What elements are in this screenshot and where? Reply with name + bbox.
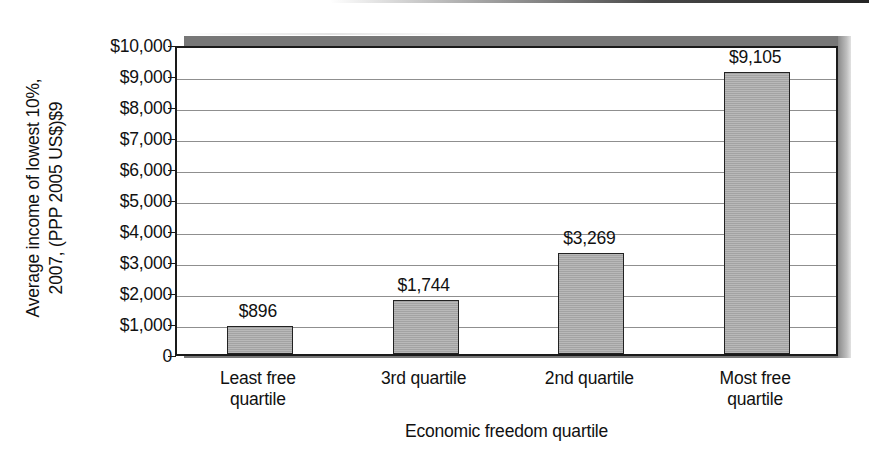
bar-value-label: $9,105 xyxy=(685,49,825,67)
y-axis-tick-label-6000: $6,000 xyxy=(62,162,172,180)
bar-value-label: $3,269 xyxy=(519,230,659,248)
scan-artifact-top xyxy=(330,0,869,3)
x-axis-category-label-line-2: quartile xyxy=(173,389,343,410)
y-axis-tick-label-9000: $9,000 xyxy=(62,69,172,87)
y-axis-title-line-1: Average income of lowest 10%, xyxy=(22,33,45,363)
bar-value-label: $896 xyxy=(188,303,328,321)
x-axis-category-label: 3rd quartile xyxy=(339,368,509,389)
x-axis-category-label: Most freequartile xyxy=(670,368,840,410)
x-axis-category-label: Least freequartile xyxy=(173,368,343,410)
y-axis-tick-0 xyxy=(168,356,176,357)
y-axis-tick-label-8000: $8,000 xyxy=(62,100,172,118)
x-axis-category-label-line-2: quartile xyxy=(670,389,840,410)
y-axis-tick-label-10000: $10,000 xyxy=(62,38,172,56)
plot-drop-shadow-fade xyxy=(838,36,851,358)
bar xyxy=(227,326,293,354)
y-axis-tick-label-0: 0 xyxy=(62,348,172,366)
x-axis-category-label-line-1: Least free xyxy=(173,368,343,389)
x-axis-category-label: 2nd quartile xyxy=(504,368,674,389)
scan-artifact-secondary xyxy=(180,33,480,35)
y-axis-tick-label-3000: $3,000 xyxy=(62,255,172,273)
x-axis-category-label-line-1: Most free xyxy=(670,368,840,389)
bar xyxy=(393,300,459,354)
bar xyxy=(558,253,624,354)
y-axis-tick-label-4000: $4,000 xyxy=(62,224,172,242)
x-axis-category-label-line-1: 2nd quartile xyxy=(504,368,674,389)
x-axis-category-label-line-1: 3rd quartile xyxy=(339,368,509,389)
bar xyxy=(724,72,790,354)
y-axis-tick-label-5000: $5,000 xyxy=(62,193,172,211)
y-axis-tick-label-7000: $7,000 xyxy=(62,131,172,149)
y-axis-tick-label-2000: $2,000 xyxy=(62,286,172,304)
y-axis-tick-label-1000: $1,000 xyxy=(62,317,172,335)
chart-page: Average income of lowest 10%, 2007, (PPP… xyxy=(0,0,869,465)
bar-value-label: $1,744 xyxy=(354,277,494,295)
x-axis-title: Economic freedom quartile xyxy=(175,421,838,441)
